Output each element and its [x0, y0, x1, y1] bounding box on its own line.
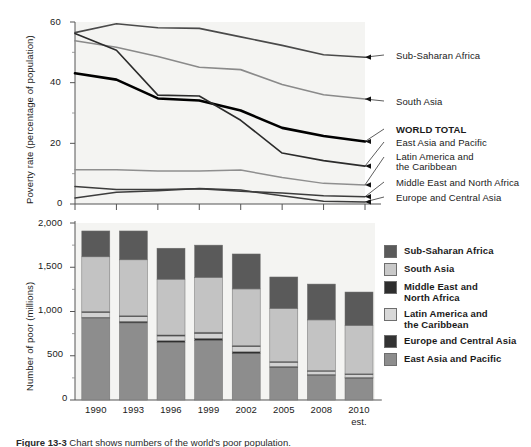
bar-segment [345, 325, 373, 373]
bar-segment [195, 245, 223, 277]
line-chart-leader-lines [365, 55, 384, 205]
line-series-1 [75, 41, 365, 99]
bar-segment [82, 313, 110, 318]
legend-label-line2: North Africa [404, 292, 460, 303]
bar-xtick-1999: 1999 [194, 405, 224, 415]
bar-segment [157, 336, 185, 341]
bar-segment [345, 375, 373, 378]
legend-label-line2: the Caribbean [404, 319, 469, 330]
bar-chart-bars [82, 231, 373, 400]
bar-segment [195, 338, 223, 340]
bar-segment [307, 284, 335, 320]
bar-segment [270, 308, 298, 361]
line-series-4 [75, 170, 365, 185]
legend-swatch-icon [384, 353, 397, 366]
bar-xtick-1993: 1993 [118, 405, 148, 415]
legend-swatch-icon [384, 281, 397, 294]
legend-item: East Asia and Pacific [384, 353, 531, 366]
bar-segment [119, 231, 147, 260]
bar-segment [232, 352, 260, 354]
bar-segment [157, 342, 185, 400]
line-label-east-asia-and-pacific: East Asia and Pacific [396, 137, 487, 148]
line-label-middle-east-north-africa: Middle East and North Africa [396, 177, 519, 188]
bar-segment [157, 341, 185, 343]
bar-segment [119, 323, 147, 400]
bar-xtick-sublabel: est. [344, 417, 374, 427]
bar-segment [345, 378, 373, 400]
legend-swatch-icon [384, 245, 397, 258]
legend-item: Europe and Central Asia [384, 335, 531, 348]
legend-swatch-icon [384, 263, 397, 276]
bar-segment [157, 248, 185, 279]
bar-segment [232, 354, 260, 400]
legend-item: Middle East andNorth Africa [384, 281, 531, 303]
bar-segment [232, 347, 260, 352]
bar-xtick-2008: 2008 [306, 405, 336, 415]
bar-segment [82, 257, 110, 312]
line-series-3 [75, 34, 365, 167]
bar-segment [307, 320, 335, 371]
legend-item: Sub-Saharan Africa [384, 245, 531, 258]
bar-segment [82, 231, 110, 257]
line-label-europe-central-asia: Europe and Central Asia [396, 192, 501, 203]
legend-item: South Asia [384, 263, 531, 276]
bar-segment [82, 318, 110, 400]
legend-label: Latin America andthe Caribbean [404, 308, 488, 330]
poverty-figure: Poverty rate (percentage of population) … [0, 0, 531, 447]
figure-caption-text: Chart shows numbers of the world's poor … [69, 437, 291, 447]
figure-caption: Figure 13-3 Chart shows numbers of the w… [16, 437, 521, 447]
line-leader-arrow-0 [365, 55, 371, 60]
bar-xtick-2002: 2002 [231, 405, 261, 415]
line-leader-arrow-1 [365, 96, 371, 101]
bar-segment [195, 340, 223, 400]
figure-caption-number: Figure 13-3 [16, 437, 67, 447]
bar-segment [232, 254, 260, 289]
bar-xtick-2005: 2005 [269, 405, 299, 415]
legend-label: Sub-Saharan Africa [404, 245, 494, 257]
line-label-latin-america-line2: the Caribbean [396, 161, 457, 172]
bar-segment [307, 371, 335, 374]
line-leader-4 [365, 157, 384, 185]
bar-segment [119, 317, 147, 322]
legend-item: Latin America andthe Caribbean [384, 308, 531, 330]
legend-swatch-icon [384, 335, 397, 348]
bar-segment [270, 368, 298, 400]
line-leader-arrow-3 [365, 163, 371, 168]
bar-segment [195, 277, 223, 332]
line-leader-2 [365, 129, 384, 142]
bar-xtick-1996: 1996 [156, 405, 186, 415]
bar-segment [157, 279, 185, 335]
bar-chart-legend: Sub-Saharan AfricaSouth AsiaMiddle East … [384, 245, 531, 371]
legend-label: Middle East andNorth Africa [404, 281, 478, 303]
bar-segment [270, 277, 298, 309]
line-chart-series [75, 24, 365, 202]
bar-segment [270, 362, 298, 366]
line-label-sub-saharan-africa: Sub-Saharan Africa [396, 50, 480, 61]
bar-segment [119, 260, 147, 316]
bar-xtick-1990: 1990 [81, 405, 111, 415]
legend-swatch-icon [384, 308, 397, 321]
bar-segment [232, 289, 260, 346]
legend-label: East Asia and Pacific [404, 353, 501, 365]
line-label-world-total: WORLD TOTAL [396, 124, 466, 135]
legend-label: South Asia [404, 263, 454, 275]
line-leader-3 [365, 142, 384, 166]
bar-segment [195, 333, 223, 338]
bar-segment [345, 292, 373, 325]
bar-segment [307, 375, 335, 400]
line-label-south-asia: South Asia [396, 96, 442, 107]
legend-label: Europe and Central Asia [404, 335, 516, 347]
bar-xtick-2010: 2010 [344, 405, 374, 415]
line-chart-panel: Poverty rate (percentage of population) … [0, 0, 531, 215]
